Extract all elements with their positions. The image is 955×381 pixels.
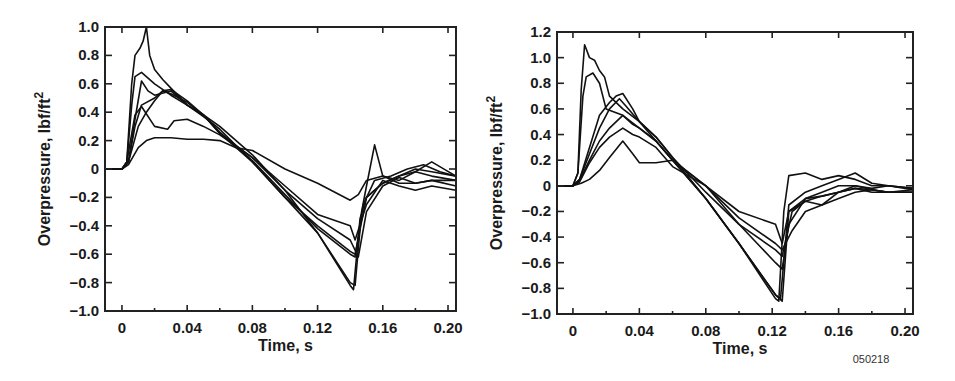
y-tick-label: −1.0 — [521, 305, 551, 322]
y-tick-label: −1.0 — [69, 302, 99, 319]
y-tick-label: −0.8 — [521, 279, 551, 296]
y-tick-label: 0.4 — [530, 126, 552, 143]
x-tick-label: 0 — [118, 319, 126, 336]
y-tick-label: 1.2 — [530, 23, 551, 40]
y-tick-label: 0.6 — [78, 75, 99, 92]
y-tick-label: −0.8 — [69, 274, 99, 291]
y-tick-label: 1.0 — [78, 18, 99, 35]
y-axis-title-superscript: 2 — [32, 92, 46, 99]
chart-right: 00.040.080.120.160.20Time, s−1.0−0.8−0.6… — [484, 23, 920, 357]
y-tick-label: 0.2 — [530, 151, 551, 168]
chart-left: 00.040.080.120.160.20Time, s−1.0−0.8−0.6… — [32, 18, 463, 354]
y-tick-label: −0.4 — [69, 217, 99, 234]
series-line-4 — [105, 91, 456, 254]
series-line-4 — [557, 99, 913, 269]
y-tick-label: 0.8 — [530, 74, 551, 91]
y-tick-label: 1.0 — [530, 49, 551, 66]
y-tick-label: 0.8 — [78, 46, 99, 63]
series-line-3 — [105, 81, 456, 257]
x-tick-label: 0.12 — [758, 322, 787, 339]
x-tick-label: 0.16 — [824, 322, 853, 339]
series-line-5 — [105, 90, 456, 258]
x-axis-title: Time, s — [258, 337, 313, 354]
y-axis-title: Overpressure, lbf/ft2 — [32, 92, 53, 247]
y-tick-label: −0.6 — [521, 254, 551, 271]
series-line-1 — [557, 45, 913, 301]
y-tick-label: −0.4 — [521, 228, 551, 245]
plot-frame — [557, 32, 913, 314]
series-line-7 — [557, 141, 913, 244]
y-tick-label: 0 — [91, 160, 99, 177]
x-axis: 00.040.080.120.160.20Time, s — [569, 32, 920, 357]
x-tick-label: 0.20 — [890, 322, 919, 339]
y-axis-title: Overpressure, lbf/ft2 — [484, 96, 505, 251]
figure: 00.040.080.120.160.20Time, s−1.0−0.8−0.6… — [0, 0, 955, 381]
data-series-group — [105, 27, 456, 290]
series-line-1 — [105, 27, 456, 290]
y-tick-label: 0 — [543, 177, 551, 194]
x-tick-label: 0.04 — [625, 322, 655, 339]
data-series-group — [557, 45, 913, 301]
y-tick-label: 0.2 — [78, 132, 99, 149]
x-tick-label: 0.12 — [303, 319, 332, 336]
y-tick-label: −0.2 — [521, 202, 551, 219]
y-tick-label: −0.2 — [69, 188, 99, 205]
plot-frame — [105, 27, 456, 311]
y-tick-label: −0.6 — [69, 245, 99, 262]
y-axis-title-superscript: 2 — [484, 96, 498, 103]
x-tick-label: 0.08 — [691, 322, 720, 339]
y-axis: −1.0−0.8−0.6−0.4−0.200.20.40.60.81.0Over… — [32, 18, 456, 319]
series-line-6 — [105, 107, 456, 241]
x-tick-label: 0.20 — [433, 319, 462, 336]
y-tick-label: 0.6 — [530, 100, 551, 117]
series-line-3 — [557, 94, 913, 302]
x-tick-label: 0.04 — [173, 319, 203, 336]
x-tick-label: 0.16 — [368, 319, 397, 336]
x-tick-label: 0.08 — [238, 319, 267, 336]
y-tick-label: 0.4 — [78, 103, 100, 120]
figure-id: 050218 — [853, 353, 890, 365]
x-tick-label: 0 — [569, 322, 577, 339]
x-axis-title: Time, s — [713, 340, 768, 357]
y-axis: −1.0−0.8−0.6−0.4−0.200.20.40.60.81.01.2O… — [484, 23, 913, 322]
